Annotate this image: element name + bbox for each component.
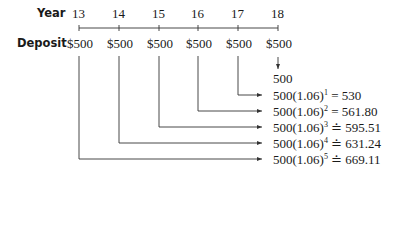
result-exponent: 1: [324, 88, 328, 97]
result-row-3: 500(1.06)3 ≐ 595.51: [273, 121, 381, 134]
arrow-17: [238, 56, 262, 95]
arrow-13: [79, 56, 262, 159]
result-value: 631.24: [345, 136, 381, 151]
arrow-16: [198, 56, 262, 111]
result-row-4: 500(1.06)4 ≐ 631.24: [273, 137, 381, 150]
result-base: 500(1.06): [273, 88, 324, 103]
result-relation: =: [331, 104, 338, 119]
result-exponent: 5: [324, 152, 328, 161]
arrow-14: [119, 56, 262, 143]
result-value: 530: [342, 88, 362, 103]
result-relation: =: [331, 88, 338, 103]
result-exponent: 4: [324, 136, 328, 145]
result-value: 669.11: [345, 152, 380, 167]
result-relation: ≐: [331, 120, 342, 135]
arrow-15: [159, 56, 262, 127]
result-base: 500(1.06): [273, 104, 324, 119]
result-relation: ≐: [331, 152, 342, 167]
result-value: 561.80: [342, 104, 378, 119]
result-base: 500: [273, 71, 293, 86]
result-exponent: 3: [324, 120, 328, 129]
result-value: 595.51: [345, 120, 381, 135]
result-base: 500(1.06): [273, 136, 324, 151]
result-base: 500(1.06): [273, 152, 324, 167]
result-row-5: 500(1.06)5 ≐ 669.11: [273, 153, 381, 166]
result-row-2: 500(1.06)2 = 561.80: [273, 105, 378, 118]
result-relation: ≐: [331, 136, 342, 151]
result-row-0: 500: [273, 72, 293, 85]
result-row-1: 500(1.06)1 = 530: [273, 89, 361, 102]
result-exponent: 2: [324, 104, 328, 113]
result-base: 500(1.06): [273, 120, 324, 135]
